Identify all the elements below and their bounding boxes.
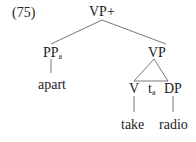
node-v: V: [129, 81, 139, 97]
leaf-apart: apart: [38, 77, 66, 93]
node-vp: VP: [148, 45, 166, 61]
node-dp: DP: [164, 81, 182, 97]
leaf-take: take: [121, 117, 144, 133]
branch-vpplus-ppa: [51, 20, 102, 44]
trace-subscript: a: [152, 88, 156, 97]
node-ppa-label: PP: [43, 45, 59, 60]
leaf-radio: radio: [159, 117, 188, 133]
vp-triangle: [134, 59, 168, 81]
example-number: (75): [12, 5, 35, 21]
node-ppa: PPa: [43, 45, 62, 65]
node-ppa-subscript: a: [59, 52, 63, 61]
trace-ta: ta: [148, 81, 155, 101]
branch-vpplus-vp: [102, 20, 166, 44]
node-vp-plus: VP+: [89, 4, 115, 20]
